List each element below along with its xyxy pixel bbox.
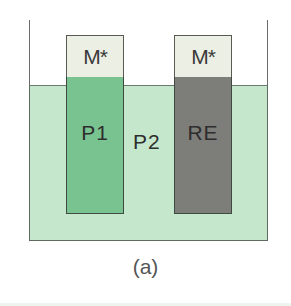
electrode-re-body: RE <box>174 77 232 214</box>
electrode-p1-cap: M* <box>66 35 124 78</box>
electrode-p1-body: P1 <box>66 77 124 214</box>
electrode-re-cap: M* <box>174 35 232 78</box>
solution-region <box>29 85 268 241</box>
figure-caption: (a) <box>0 255 291 279</box>
solution-label-p2: P2 <box>133 130 161 154</box>
